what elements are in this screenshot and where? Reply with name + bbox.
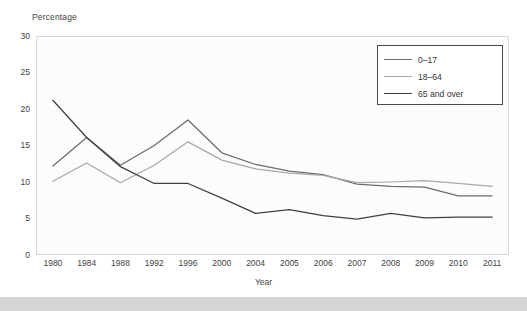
x-tick-label: 1988	[111, 258, 130, 268]
x-tick-label: 2000	[212, 258, 231, 268]
x-tick-label: 1984	[77, 258, 96, 268]
y-tick-label: 30	[4, 31, 30, 41]
chart-figure: Percentage 051015202530 1980198419881992…	[0, 0, 527, 297]
x-tick-label: 1980	[43, 258, 62, 268]
legend-item-65-and-over: 65 and over	[384, 85, 496, 102]
x-tick-label: 2006	[314, 258, 333, 268]
x-tick-label: 2004	[246, 258, 265, 268]
legend-swatch-0-17	[384, 59, 412, 60]
y-tick-label: 10	[4, 177, 30, 187]
bottom-band	[0, 297, 527, 311]
legend-swatch-18-64	[384, 76, 412, 77]
x-tick-label: 2011	[483, 258, 501, 268]
y-tick-label: 25	[4, 67, 30, 77]
x-tick-label: 2005	[280, 258, 299, 268]
legend-item-18-64: 18–64	[384, 68, 496, 85]
series-line-0	[53, 120, 492, 196]
legend-label-18-64: 18–64	[418, 72, 442, 82]
y-tick-label: 5	[4, 213, 30, 223]
legend-label-0-17: 0–17	[418, 55, 437, 65]
y-tick-label: 15	[4, 140, 30, 150]
x-tick-label: 2010	[449, 258, 468, 268]
x-tick-label: 2009	[415, 258, 434, 268]
y-tick-label: 20	[4, 104, 30, 114]
series-line-2	[53, 100, 492, 219]
x-tick-label: 2007	[347, 258, 366, 268]
series-paths-group	[53, 100, 492, 219]
y-tick-label: 0	[4, 250, 30, 260]
x-tick-label: 1992	[145, 258, 164, 268]
x-tick-label: 2008	[381, 258, 400, 268]
x-tick-label: 1996	[179, 258, 198, 268]
x-axis-title: Year	[0, 277, 527, 287]
legend-item-0-17: 0–17	[384, 51, 496, 68]
chart-legend: 0–17 18–64 65 and over	[377, 45, 503, 105]
legend-swatch-65-and-over	[384, 93, 412, 94]
legend-label-65-and-over: 65 and over	[418, 89, 463, 99]
